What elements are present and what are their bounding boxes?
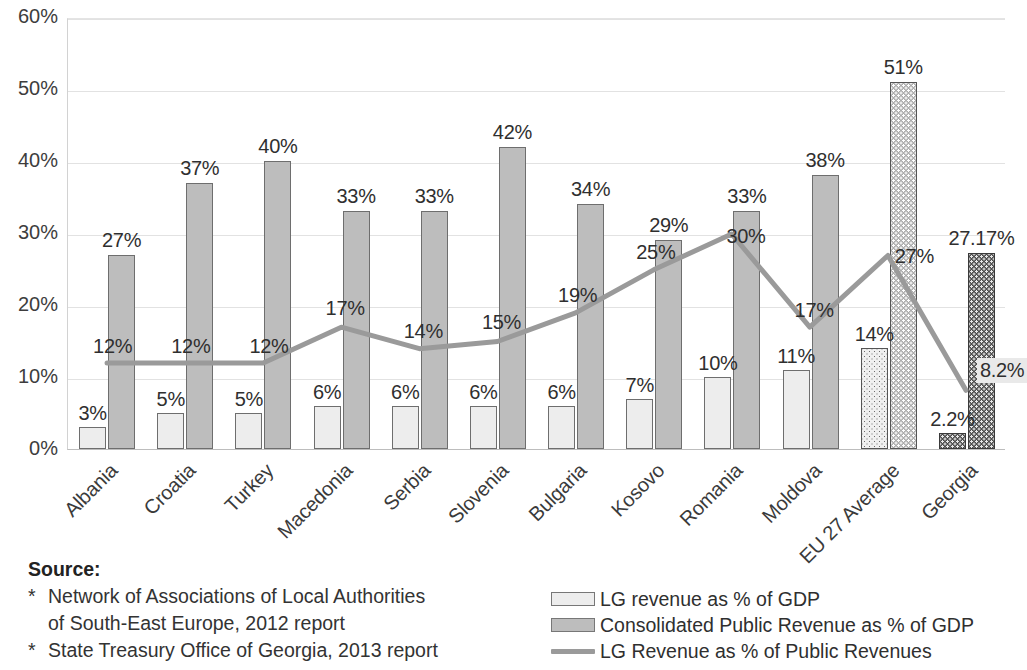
bar-value-label-series1: 3% [58,402,128,425]
line-value-label: 30% [726,225,765,248]
bar-value-label-series1: 6% [527,381,597,404]
source-item-text: State Treasury Office of Georgia, 2013 r… [48,637,528,664]
bar-value-label-series1: 5% [214,388,284,411]
legend-label: LG revenue as % of GDP [600,586,820,612]
y-axis-tick-label: 30% [0,221,58,244]
line-value-label: 12% [93,335,132,358]
bar-value-label-series1: 7% [605,374,675,397]
source-item-text: Network of Associations of Local Authori… [48,583,528,610]
bar-value-label-series1: 2.2% [917,408,987,431]
bar-value-label-series1: 6% [370,381,440,404]
y-axis-tick-label: 60% [0,5,58,28]
line-value-label: 8.2% [977,358,1027,383]
line-value-label: 12% [249,335,288,358]
legend-label: LG Revenue as % of Public Revenues [600,638,932,664]
bar-series1 [939,433,966,449]
chart-legend: LG revenue as % of GDP Consolidated Publ… [551,586,974,664]
bar-value-label-series2: 38% [780,149,870,172]
legend-swatch-mid-icon [551,618,595,632]
bar-value-label-series2: 34% [546,178,636,201]
bar-value-label-series2: 33% [389,185,479,208]
bar-value-label-series2: 29% [624,214,714,237]
line-value-label: 15% [482,311,521,334]
bar-series1 [157,413,184,449]
bar-value-label-series2: 33% [702,185,792,208]
line-value-label: 27% [895,245,934,268]
line-value-label: 17% [326,297,365,320]
bar-value-label-series2: 33% [311,185,401,208]
bar-value-label-series2: 37% [155,157,245,180]
y-axis-tick-label: 0% [0,437,58,460]
y-axis-tick-label: 10% [0,365,58,388]
bar-value-label-series2: 51% [858,56,948,79]
line-value-label: 14% [404,320,443,343]
bar-value-label-series2: 27% [77,229,167,252]
bar-value-label-series1: 11% [761,345,831,368]
bar-series1 [861,348,888,449]
bar-series1 [626,399,653,449]
bar-value-label-series2: 40% [233,135,323,158]
bar-series1 [548,406,575,449]
source-block: Source: * Network of Associations of Loc… [28,556,528,664]
source-item: * Network of Associations of Local Autho… [28,583,528,610]
bar-series2 [577,204,604,449]
line-value-label: 19% [558,284,597,307]
bar-value-label-series1: 5% [136,388,206,411]
bar-series2 [343,211,370,449]
y-axis-tick-label: 40% [0,149,58,172]
legend-item: Consolidated Public Revenue as % of GDP [551,612,974,638]
source-item-continuation: of South-East Europe, 2012 report [48,610,528,637]
line-value-label: 17% [795,299,834,322]
y-axis-tick-label: 50% [0,77,58,100]
legend-line-marker-icon [551,644,595,658]
bar-value-label-series1: 6% [292,381,362,404]
legend-swatch-light-icon [551,592,595,606]
plot-area: 3%27%5%37%5%40%6%33%6%33%6%42%6%34%7%29%… [67,18,1005,450]
source-bullet-icon: * [28,637,38,664]
bar-series2 [655,240,682,449]
source-bullet-icon: * [28,583,38,610]
bar-series1 [392,406,419,449]
legend-label: Consolidated Public Revenue as % of GDP [600,612,974,638]
bar-value-label-series2: 27.17% [936,227,1026,250]
bar-series1 [704,377,731,449]
line-value-label: 12% [171,335,210,358]
bar-series1 [235,413,262,449]
y-axis-tick-label: 20% [0,293,58,316]
line-value-label: 25% [636,241,675,264]
bar-series1 [470,406,497,449]
legend-item: LG revenue as % of GDP [551,586,974,612]
gridline [68,19,1005,20]
bar-series1 [314,406,341,449]
bar-value-label-series2: 42% [467,121,557,144]
bar-series1 [79,427,106,449]
bar-value-label-series1: 10% [683,352,753,375]
bar-value-label-series1: 6% [448,381,518,404]
bar-value-label-series1: 14% [839,323,909,346]
source-title: Source: [28,556,528,583]
legend-item: LG Revenue as % of Public Revenues [551,638,974,664]
gridline [68,91,1005,92]
source-item: * State Treasury Office of Georgia, 2013… [28,637,528,664]
bar-series1 [783,370,810,449]
